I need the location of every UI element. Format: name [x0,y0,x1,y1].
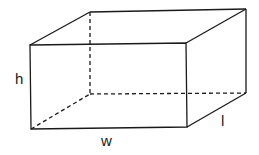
hidden-edge-bottom-left-depth [31,94,90,129]
edge-back-top [90,9,246,12]
cuboid-diagram: h w l [0,0,259,155]
edge-top-right-depth [186,9,246,43]
edge-top-left-depth [30,12,90,45]
label-length: l [221,112,224,129]
edge-bottom-right-depth [187,93,246,127]
hidden-edge-back-bottom [90,93,246,94]
front-face [30,43,187,129]
label-width: w [100,132,112,149]
label-height: h [15,70,23,87]
